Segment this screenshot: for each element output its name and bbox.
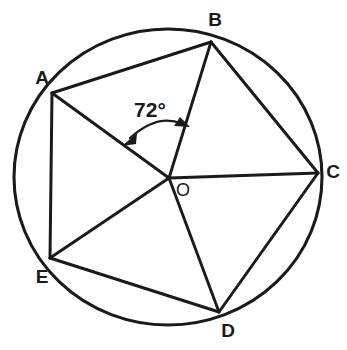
chord-ea [50,93,52,258]
geometry-canvas: 72° A B C D E O [0,0,347,350]
radius-oc [169,173,318,178]
angle-arc [130,121,182,138]
vertex-label-c: C [326,161,340,182]
chord-ab [52,42,211,93]
chord-de [50,258,219,312]
vertex-label-b: B [208,9,222,30]
vertex-label-a: A [35,67,49,88]
angle-value-label: 72° [134,98,166,121]
radius-oe [50,178,169,258]
vertex-label-e: E [36,266,49,287]
circle-geometry-diagram: 72° A B C D E O [0,0,347,350]
radius-ob [169,42,211,178]
center-label-o: O [176,180,190,200]
vertex-label-d: D [221,320,235,341]
